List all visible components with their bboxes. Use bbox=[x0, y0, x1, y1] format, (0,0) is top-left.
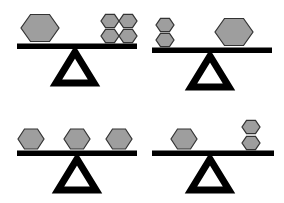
balance-beam bbox=[152, 151, 274, 157]
hexagon-small bbox=[119, 29, 137, 42]
left-pan-shapes-top-right bbox=[156, 18, 174, 46]
hexagon-small bbox=[156, 18, 174, 31]
right-pan-shapes-bottom-right bbox=[242, 120, 260, 149]
hexagon-large bbox=[215, 19, 253, 46]
hexagon-medium bbox=[18, 129, 44, 149]
hexagon-medium bbox=[171, 129, 197, 149]
balance-beam bbox=[152, 48, 272, 54]
balance-puzzle-figure bbox=[0, 0, 284, 203]
balance-panel-bottom-right bbox=[142, 101, 284, 202]
hexagon-medium bbox=[64, 129, 90, 149]
left-pan-shapes-bottom-left bbox=[18, 129, 44, 149]
left-pan-shapes-top-left bbox=[21, 15, 59, 42]
balance-beam bbox=[17, 44, 137, 50]
fulcrum-triangle bbox=[58, 159, 96, 190]
hexagon-small bbox=[101, 14, 119, 27]
balance-scale-svg-bottom-left bbox=[0, 101, 142, 203]
hexagon-medium bbox=[106, 129, 132, 149]
hexagon-small bbox=[101, 29, 119, 42]
balance-scale-svg-top-left bbox=[0, 0, 142, 102]
hexagon-small bbox=[242, 120, 260, 133]
right-pan-shapes-bottom-left bbox=[64, 129, 132, 149]
balance-panel-top-left bbox=[0, 0, 142, 101]
balance-scale-svg-bottom-right bbox=[142, 101, 284, 203]
right-pan-shapes-top-right bbox=[215, 19, 253, 46]
right-pan-shapes-top-left bbox=[101, 14, 137, 42]
hexagon-small bbox=[119, 14, 137, 27]
hexagon-small bbox=[242, 136, 260, 149]
fulcrum-triangle bbox=[56, 52, 94, 83]
balance-scale-svg-top-right bbox=[142, 0, 284, 102]
left-pan-shapes-bottom-right bbox=[171, 129, 197, 149]
balance-panel-bottom-left bbox=[0, 101, 142, 202]
balance-panel-top-right bbox=[142, 0, 284, 101]
fulcrum-triangle bbox=[191, 56, 229, 87]
hexagon-small bbox=[156, 33, 174, 46]
hexagon-large bbox=[21, 15, 59, 42]
fulcrum-triangle bbox=[191, 159, 229, 190]
